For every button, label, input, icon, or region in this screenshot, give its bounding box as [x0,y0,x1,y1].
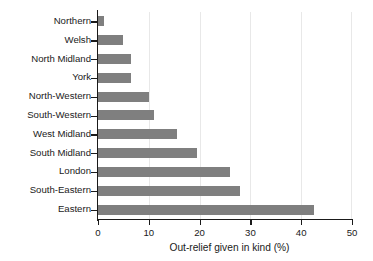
bar [98,167,230,177]
bar-slot [98,125,352,144]
x-tick [149,219,150,225]
bar [98,110,154,120]
bar [98,186,240,196]
y-tick [91,21,97,22]
bar-chart-figure: NorthernWelshNorth MidlandYorkNorth-West… [0,0,373,261]
y-axis-tick-label: North Midland [31,54,91,64]
x-axis-tick-label: 40 [281,227,321,238]
bar [98,54,131,64]
bar-slot [98,50,352,69]
y-tick [91,134,97,135]
x-tick [98,219,99,225]
x-axis-title: Out-relief given in kind (%) [0,242,373,253]
bar-slot [98,87,352,106]
plot-area [98,12,352,219]
y-axis-tick-label: Northern [54,16,91,26]
y-tick [91,116,97,117]
bar-slot [98,106,352,125]
bar [98,205,314,215]
y-axis-tick-label: West Midland [33,129,91,139]
y-axis-tick-label: Welsh [65,35,91,45]
bar-slot [98,68,352,87]
bar-series [98,12,352,219]
y-tick [91,78,97,79]
x-axis-line [97,219,353,220]
bar-slot [98,181,352,200]
x-axis-title-text: Out-relief given in kind (%) [83,242,289,253]
bar [98,92,149,102]
y-axis-line [97,10,98,221]
y-tick [91,97,97,98]
x-tick [301,219,302,225]
x-tick [250,219,251,225]
y-axis-tick-label: South-Eastern [30,185,91,195]
bar-slot [98,31,352,50]
x-axis-tick-label: 30 [230,227,270,238]
x-axis-tick-label: 10 [129,227,169,238]
bar-slot [98,12,352,31]
x-tick [200,219,201,225]
y-axis-tick-label: South-Western [27,110,91,120]
y-axis-tick-label: Eastern [58,204,91,214]
y-tick [91,40,97,41]
bar [98,129,177,139]
bar [98,16,104,26]
x-tick [352,219,353,225]
y-tick [91,210,97,211]
y-axis-tick-label: London [59,166,91,176]
y-axis-tick-label: York [72,72,91,82]
bar-slot [98,163,352,182]
bar-slot [98,200,352,219]
x-axis-tick-label: 50 [332,227,372,238]
y-axis-tick-label: North-Western [29,91,91,101]
bar-slot [98,144,352,163]
y-tick [91,191,97,192]
y-tick [91,59,97,60]
y-tick [91,172,97,173]
x-axis-tick-label: 0 [78,227,118,238]
bar [98,148,197,158]
y-axis-tick-label: South Midland [30,148,91,158]
x-axis-tick-label: 20 [180,227,220,238]
bar [98,35,123,45]
y-tick [91,153,97,154]
bar [98,73,131,83]
